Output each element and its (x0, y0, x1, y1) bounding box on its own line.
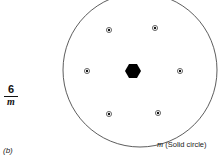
figure-caption: (b) (3, 146, 13, 155)
stereogram (0, 0, 224, 162)
symbol-denominator: m (4, 97, 18, 107)
point-group-symbol: 6 m (4, 84, 18, 107)
point-dot-in-circle-icon (106, 27, 111, 32)
point-dot-in-circle-icon (106, 111, 111, 116)
mirror-label: m (Solid circle) (157, 139, 206, 149)
mirror-description: (Solid circle) (163, 140, 206, 149)
point-dot-in-circle-icon (152, 25, 157, 30)
point-dot-in-circle-icon (84, 68, 89, 73)
point-dot-in-circle-icon (155, 110, 160, 115)
sixfold-axis-hexagon-icon (125, 64, 141, 78)
point-dot-in-circle-icon (177, 68, 182, 73)
